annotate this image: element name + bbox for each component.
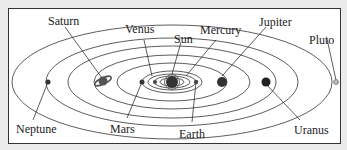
label-uranus: Uranus (294, 123, 329, 137)
label-sun: Sun (174, 32, 193, 46)
label-mercury: Mercury (200, 23, 241, 37)
label-jupiter: Jupiter (259, 15, 292, 29)
label-earth: Earth (179, 127, 205, 141)
label-pluto: Pluto (309, 33, 334, 47)
label-neptune: Neptune (16, 122, 57, 136)
planets (46, 74, 339, 89)
label-saturn: Saturn (48, 14, 79, 28)
solar-system-diagram: Saturn Venus Sun Mercury Jupiter Pluto N… (0, 0, 347, 150)
label-venus: Venus (125, 22, 155, 36)
label-mars: Mars (110, 122, 135, 136)
